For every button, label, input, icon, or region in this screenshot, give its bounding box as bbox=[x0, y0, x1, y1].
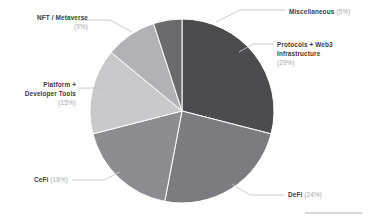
pie-label-platform-percent: (15%) bbox=[58, 99, 76, 106]
pie-label-cefi-percent: (18%) bbox=[50, 176, 68, 183]
pie-label-cefi: CeFi (18%) bbox=[10, 175, 68, 184]
pie-slice-group bbox=[90, 19, 274, 203]
pie-label-protocols-percent: (29%) bbox=[277, 59, 295, 66]
pie-label-miscellaneous: Miscellaneous (5%) bbox=[289, 7, 350, 16]
pie-label-protocols-name-line2: Infrastructure bbox=[277, 50, 320, 57]
pie-label-defi: DeFi (24%) bbox=[288, 190, 322, 199]
pie-label-platform-name-line1: Platform + bbox=[43, 81, 76, 88]
pie-label-nft-name: NFT / Metaverse bbox=[37, 14, 88, 21]
pie-label-platform-name-line2: Developer Tools bbox=[25, 90, 76, 97]
leader-line-defi bbox=[232, 184, 284, 195]
pie-label-nft-percent: (9%) bbox=[74, 23, 88, 30]
pie-label-defi-name: DeFi bbox=[288, 191, 302, 198]
pie-label-protocols-web3-infrastructure: Protocols + Web3 Infrastructure (29%) bbox=[277, 40, 363, 68]
pie-label-platform-developer-tools: Platform + Developer Tools (15%) bbox=[2, 80, 76, 108]
pie-label-nft-metaverse: NFT / Metaverse (9%) bbox=[2, 13, 88, 31]
leader-line-miscellaneous bbox=[216, 10, 286, 22]
pie-chart: Miscellaneous (5%) Protocols + Web3 Infr… bbox=[0, 0, 368, 223]
leader-line-cefi bbox=[72, 172, 120, 180]
pie-label-miscellaneous-name: Miscellaneous bbox=[289, 8, 334, 15]
pie-label-miscellaneous-percent: (5%) bbox=[336, 8, 350, 15]
footer-divider bbox=[305, 212, 362, 214]
pie-label-defi-percent: (24%) bbox=[304, 191, 322, 198]
pie-label-protocols-name-line1: Protocols + Web3 bbox=[277, 41, 333, 48]
pie-label-cefi-name: CeFi bbox=[34, 176, 48, 183]
